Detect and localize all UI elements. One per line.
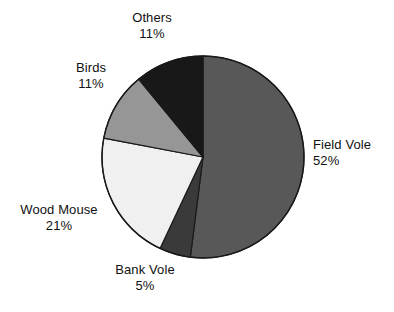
pie-label-birds: Birds 11% bbox=[52, 60, 130, 92]
pie-label-bank-vole-value: 5% bbox=[100, 278, 190, 294]
pie-chart: Others 11% Birds 11% Field Vole 52% Wood… bbox=[0, 0, 394, 312]
pie-label-wood-mouse-name: Wood Mouse bbox=[6, 202, 112, 218]
pie-slice-field-vole bbox=[190, 56, 304, 258]
pie-label-birds-value: 11% bbox=[52, 76, 130, 92]
pie-label-wood-mouse: Wood Mouse 21% bbox=[6, 202, 112, 234]
pie-label-field-vole: Field Vole 52% bbox=[313, 137, 394, 169]
pie-slice-group bbox=[102, 56, 304, 258]
pie-label-others-value: 11% bbox=[110, 26, 194, 42]
pie-label-field-vole-value: 52% bbox=[313, 153, 394, 169]
pie-label-wood-mouse-value: 21% bbox=[6, 218, 112, 234]
pie-label-field-vole-name: Field Vole bbox=[313, 137, 394, 153]
pie-label-birds-name: Birds bbox=[52, 60, 130, 76]
pie-label-bank-vole: Bank Vole 5% bbox=[100, 262, 190, 294]
pie-label-bank-vole-name: Bank Vole bbox=[100, 262, 190, 278]
pie-label-others: Others 11% bbox=[110, 10, 194, 42]
pie-label-others-name: Others bbox=[110, 10, 194, 26]
